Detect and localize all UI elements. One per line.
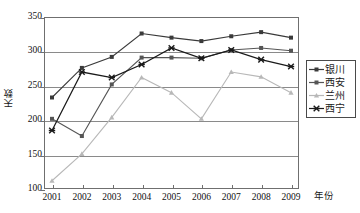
data-point-marker [313,106,319,112]
legend-item[interactable]: 兰州 [308,89,353,102]
series-line [52,32,291,97]
data-point-marker [169,90,174,95]
data-point-marker [170,56,174,60]
data-point-marker [140,32,144,36]
series-line [52,48,291,131]
data-point-marker [289,36,293,40]
data-point-marker [140,56,144,60]
data-point-marker [138,62,144,68]
data-point-marker [229,34,233,38]
legend-item[interactable]: 西宁 [308,102,353,115]
data-point-marker [79,69,85,75]
data-point-marker [80,134,84,138]
data-point-marker [170,36,174,40]
line-chart: 天数 年份 100150200250300350 200120022003200… [0,0,360,213]
data-point-marker [259,46,263,50]
data-point-marker [315,68,319,72]
data-point-marker [110,55,114,59]
data-point-marker [49,128,55,134]
data-point-marker [168,45,174,51]
legend-item[interactable]: 西安 [308,76,353,89]
data-point-marker [109,75,115,81]
data-point-marker [50,117,54,121]
data-point-marker [259,30,263,34]
legend-item-label: 兰州 [325,90,345,101]
legend-marker-icon [308,64,325,75]
data-point-marker [288,64,294,70]
legend-marker-icon [308,103,325,114]
data-point-marker [288,90,293,95]
data-series [50,30,293,99]
legend-marker-icon [308,90,325,101]
legend: 银川 西安 兰州 西宁 [306,60,356,118]
data-point-marker [139,75,144,80]
legend-marker-icon [308,77,325,88]
data-point-marker [229,69,234,74]
legend-item-label: 西宁 [325,103,345,114]
data-point-marker [110,82,114,86]
data-point-marker [289,49,293,53]
legend-item-label: 银川 [325,64,345,75]
data-point-marker [199,39,203,43]
legend-item[interactable]: 银川 [308,63,353,76]
data-series [49,69,293,182]
data-point-marker [80,66,84,70]
data-point-marker [258,57,264,63]
data-point-marker [315,81,319,85]
legend-item-label: 西安 [325,77,345,88]
data-point-marker [50,95,54,99]
